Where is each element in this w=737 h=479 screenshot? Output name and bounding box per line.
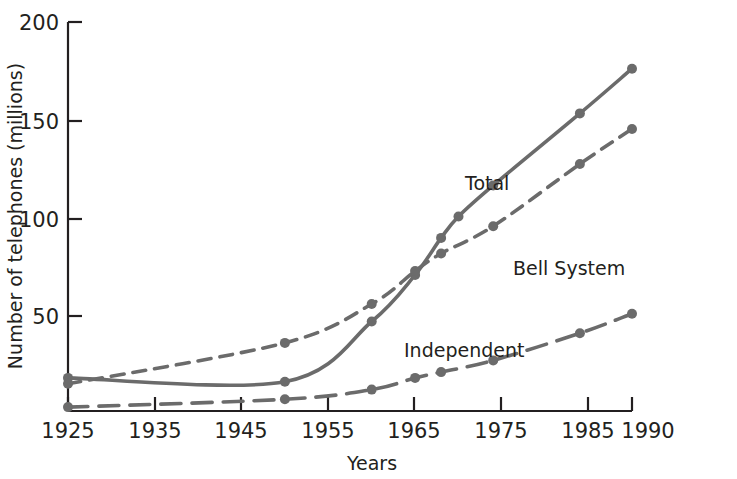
- data-point-total-1990: [627, 64, 637, 74]
- y-tick-label-50: 50: [32, 305, 59, 329]
- data-point-independent-1960: [367, 385, 377, 395]
- series-label-independent: Independent: [404, 339, 524, 361]
- series-line-total: [68, 69, 632, 386]
- series-label-total: Total: [464, 172, 509, 194]
- data-point-independent-1965: [410, 373, 420, 383]
- data-point-independent-1968: [436, 367, 446, 377]
- data-point-total-1960: [367, 317, 377, 327]
- chart-canvas: 200 150 100 50 1925 1935 1945 1955 1965 …: [0, 0, 737, 479]
- data-point-bell-system-1974: [488, 221, 498, 231]
- data-point-bell-system-1960: [367, 299, 377, 309]
- data-point-bell-system-1965: [410, 266, 420, 276]
- data-point-total-1970: [454, 212, 464, 222]
- data-point-bell-system-1950: [280, 338, 290, 348]
- x-tick-label-1955: 1955: [301, 419, 354, 443]
- data-point-total-1968: [436, 233, 446, 243]
- data-point-independent-1950: [280, 394, 290, 404]
- x-axis-title: Years: [346, 452, 397, 474]
- y-tick-label-200: 200: [19, 11, 59, 35]
- x-tick-label-1965: 1965: [387, 419, 440, 443]
- telephone-growth-chart: 200 150 100 50 1925 1935 1945 1955 1965 …: [0, 0, 737, 479]
- y-axis-title: Number of telephones (millions): [4, 63, 26, 369]
- data-point-bell-system-1968: [436, 249, 446, 259]
- x-tick-label-1975: 1975: [474, 419, 527, 443]
- data-point-total-1950: [280, 377, 290, 387]
- x-tick-label-1925: 1925: [41, 419, 94, 443]
- x-tick-label-1985: 1985: [561, 419, 614, 443]
- data-point-bell-system-1990: [627, 124, 637, 134]
- data-point-bell-system-1984: [575, 159, 585, 169]
- series-label-bell-system: Bell System: [513, 257, 625, 279]
- data-point-independent-1990: [627, 309, 637, 319]
- series-layer: [63, 64, 637, 412]
- data-point-bell-system-1925: [63, 379, 73, 389]
- series-line-independent: [68, 314, 632, 407]
- data-point-independent-1984: [575, 328, 585, 338]
- x-tick-label-1945: 1945: [214, 419, 267, 443]
- x-tick-label-1990: 1990: [621, 419, 674, 443]
- data-point-total-1984: [575, 108, 585, 118]
- x-tick-label-1935: 1935: [128, 419, 181, 443]
- data-point-independent-1925: [63, 402, 73, 412]
